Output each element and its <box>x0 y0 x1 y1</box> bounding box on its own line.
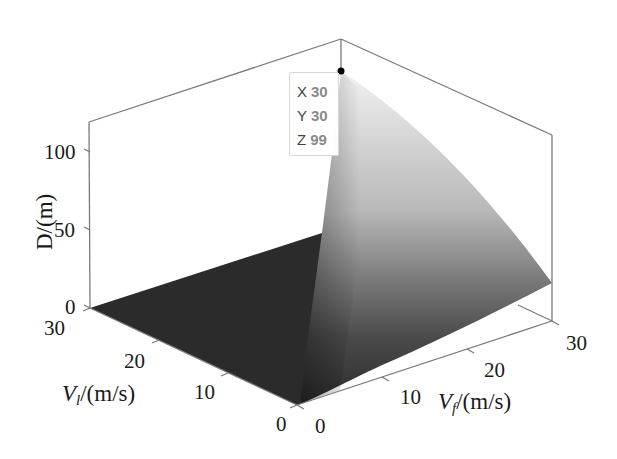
y-tick-30 <box>83 308 90 311</box>
x-tick-20 <box>467 349 474 353</box>
x-tick-30 <box>552 321 559 325</box>
datatip-box: X30 Y30 Z99 <box>289 72 339 156</box>
floor-right-hidden-edge <box>518 305 552 321</box>
x-axis-label-symbol: V <box>438 389 452 414</box>
x-axis-label-unit: /(m/s) <box>456 389 511 414</box>
x-tick-label-10: 10 <box>400 387 421 408</box>
y-tick-label-20: 20 <box>124 351 145 372</box>
y-tick-0 <box>290 405 297 408</box>
y-tick-20 <box>152 340 159 343</box>
z-tick-0 <box>84 305 90 308</box>
datatip-row-y: Y30 <box>297 104 338 128</box>
datatip-x-value: 30 <box>311 83 328 100</box>
y-tick-label-30: 30 <box>44 318 65 339</box>
datatip-y-key: Y <box>297 107 307 124</box>
y-tick-label-0: 0 <box>276 414 287 435</box>
datatip-row-x: X30 <box>297 80 338 104</box>
z-axis-label: D/(m) <box>33 194 56 250</box>
y-tick-label-10: 10 <box>194 382 215 403</box>
z-tick-label-100: 100 <box>44 142 76 163</box>
x-tick-label-20: 20 <box>484 360 505 381</box>
z-tick-label-50: 50 <box>54 220 75 241</box>
y-axis-label-symbol: V <box>62 381 76 406</box>
back-left-vertical-edge <box>89 122 90 308</box>
datatip-z-key: Z <box>297 131 306 148</box>
datatip-row-z: Z99 <box>297 128 338 152</box>
y-axis-label: Vl/(m/s) <box>62 382 135 408</box>
datatip-x-key: X <box>297 83 307 100</box>
y-tick-10 <box>221 373 228 376</box>
z-tick-label-0: 0 <box>65 297 76 318</box>
x-tick-0 <box>297 405 304 409</box>
x-tick-10 <box>382 377 389 381</box>
x-tick-label-30: 30 <box>566 333 587 354</box>
datatip-y-value: 30 <box>311 107 328 124</box>
x-tick-label-0: 0 <box>315 416 326 437</box>
x-axis-label: Vf/(m/s) <box>438 390 511 416</box>
datatip-z-value: 99 <box>310 131 327 148</box>
y-axis-label-unit: /(m/s) <box>80 381 135 406</box>
